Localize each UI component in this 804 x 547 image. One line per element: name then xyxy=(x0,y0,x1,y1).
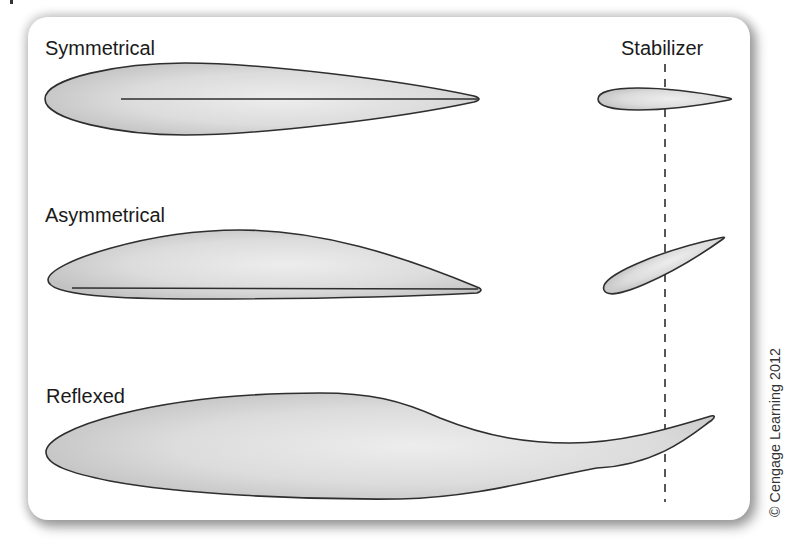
stabilizer-level xyxy=(598,88,732,110)
label-reflexed: Reflexed xyxy=(46,385,125,407)
asymmetrical-chord-line xyxy=(72,288,478,289)
label-stabilizer: Stabilizer xyxy=(621,37,704,59)
symmetrical-airfoil xyxy=(45,63,479,135)
label-symmetrical: Symmetrical xyxy=(45,37,155,59)
reflexed-airfoil xyxy=(46,393,714,499)
asymmetrical-airfoil xyxy=(48,230,481,299)
airfoil-diagram: Symmetrical Stabilizer Asymmetrical Refl… xyxy=(0,0,804,547)
copyright-credit: © Cengage Learning 2012 xyxy=(767,348,783,517)
label-asymmetrical: Asymmetrical xyxy=(45,204,165,226)
